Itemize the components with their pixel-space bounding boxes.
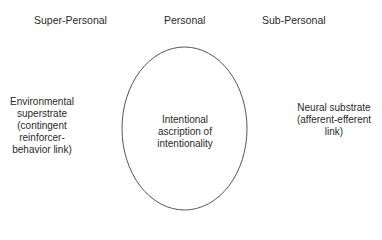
label-line: reinforcer- <box>2 132 82 144</box>
label-line: Neural substrate <box>288 102 380 114</box>
label-line: ascription of <box>140 126 230 138</box>
label-line: (contingent <box>2 120 82 132</box>
intentional-ascription-label: Intentional ascription of intentionality <box>140 114 230 150</box>
neural-substrate-label: Neural substrate (afferent-efferent link… <box>288 102 380 138</box>
label-line: behavior link) <box>2 144 82 156</box>
label-line: Environmental <box>2 96 82 108</box>
environmental-superstrate-label: Environmental superstrate (contingent re… <box>2 96 82 156</box>
label-line: link) <box>288 126 380 138</box>
label-line: (afferent-efferent <box>288 114 380 126</box>
label-line: Intentional <box>140 114 230 126</box>
label-line: superstrate <box>2 108 82 120</box>
label-line: intentionality <box>140 138 230 150</box>
